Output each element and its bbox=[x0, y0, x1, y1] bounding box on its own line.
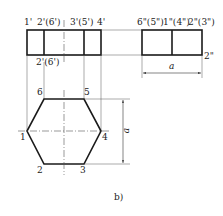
front-label-2-6: 2'(6') bbox=[37, 18, 60, 27]
vertex-label-2: 2 bbox=[37, 166, 43, 175]
side-label-2-3: 2"(3") bbox=[188, 18, 215, 27]
figure-caption: b) bbox=[114, 193, 123, 202]
vertex-label-4: 4 bbox=[102, 133, 108, 142]
vertex-label-5: 5 bbox=[84, 88, 90, 97]
drawing-canvas bbox=[0, 0, 223, 216]
front-label-4: 4' bbox=[97, 18, 105, 27]
side-dimension-a: a bbox=[169, 62, 174, 71]
vertex-label-6: 6 bbox=[37, 88, 43, 97]
side-label-6-5: 6"(5") bbox=[137, 18, 164, 27]
front-label-1: 1' bbox=[24, 18, 32, 27]
top-dimension-a: a bbox=[122, 128, 131, 133]
side-label-1-4: 1"(4") bbox=[163, 18, 190, 27]
orthographic-projection-drawing: 1' 2'(6') 3'(5') 4' 2'(6') 6"(5") 1"(4")… bbox=[0, 0, 223, 216]
top-view bbox=[18, 90, 130, 175]
vertex-label-3: 3 bbox=[80, 166, 86, 175]
front-label-bottom-2-6: 2'(6') bbox=[36, 58, 59, 67]
side-label-2-right: 2" bbox=[204, 52, 214, 61]
front-label-3-5: 3'(5') bbox=[70, 18, 93, 27]
vertex-label-1: 1 bbox=[20, 133, 26, 142]
